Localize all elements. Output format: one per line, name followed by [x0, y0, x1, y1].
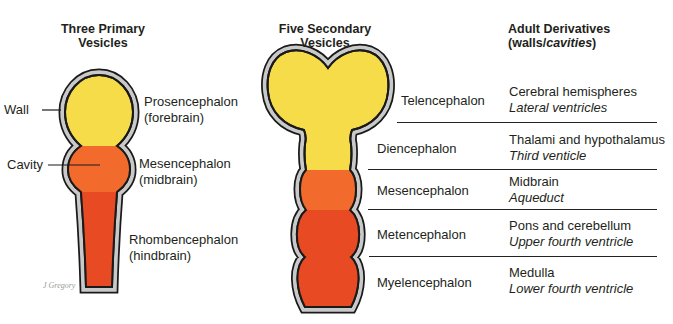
- author-credit: J Gregory: [43, 281, 75, 290]
- derivative-diencephalon: Thalami and hypothalamus Third venticle: [509, 132, 665, 164]
- five-secondary-vesicles-drawing: [268, 50, 389, 310]
- diencephalon-label: Diencephalon: [377, 141, 457, 157]
- telencephalon-label: Telencephalon: [401, 93, 485, 109]
- primary-vesicles-title: Three Primary Vesicles: [58, 22, 148, 50]
- divider-line: [368, 209, 657, 210]
- derivative-metencephalon: Pons and cerebellum Upper fourth ventric…: [509, 218, 633, 250]
- prosencephalon-label: Prosencephalon (forebrain): [144, 94, 238, 126]
- myelencephalon-label: Myelencephalon: [377, 275, 472, 291]
- divider-line: [369, 256, 657, 257]
- divider-line: [397, 122, 657, 123]
- adult-derivatives-title: Adult Derivatives (walls/cavities): [508, 22, 610, 50]
- derivative-myelencephalon: Medulla Lower fourth ventricle: [509, 265, 633, 297]
- cavity-label: Cavity: [7, 157, 43, 173]
- mesencephalon-secondary-label: Mesencephalon: [377, 183, 469, 199]
- wall-label: Wall: [4, 102, 29, 118]
- brain-vesicles-diagram: Three Primary Vesicles Wall Cavity Prose…: [0, 0, 673, 324]
- derivative-telencephalon: Cerebral hemispheres Lateral ventricles: [509, 84, 637, 116]
- title-line-2: Vesicles: [58, 36, 148, 50]
- derivative-mesencephalon: Midbrain Aqueduct: [509, 174, 564, 206]
- rhombencephalon-label: Rhombencephalon (hindbrain): [129, 232, 238, 264]
- secondary-vesicles-title: Five Secondary Vesicles: [270, 22, 380, 50]
- mesencephalon-primary-label: Mesencephalon (midbrain): [139, 156, 231, 188]
- metencephalon-label: Metencephalon: [377, 227, 466, 243]
- title-line-1: Three Primary: [58, 22, 148, 36]
- divider-line: [368, 169, 657, 170]
- three-primary-vesicles-drawing: [60, 75, 140, 292]
